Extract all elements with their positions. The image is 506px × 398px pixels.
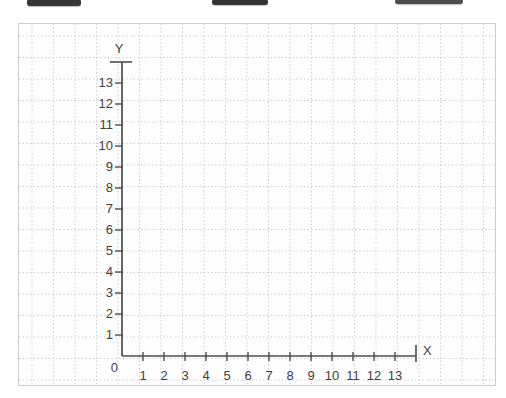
x-tick-label: 4 xyxy=(202,368,209,383)
y-tick-label: 1 xyxy=(106,327,113,342)
y-tick-label: 9 xyxy=(106,159,113,174)
toolbar-button-fragment-left[interactable] xyxy=(27,0,81,6)
y-tick-label: 8 xyxy=(106,180,113,195)
graph-paper-panel: 12345678910111213123456789101112130XY xyxy=(18,23,496,386)
x-tick-label: 13 xyxy=(388,368,402,383)
x-tick-label: 10 xyxy=(325,368,339,383)
y-tick-label: 7 xyxy=(106,201,113,216)
x-tick-label: 12 xyxy=(367,368,381,383)
y-tick-label: 10 xyxy=(99,138,113,153)
y-tick-label: 5 xyxy=(106,243,113,258)
x-tick-label: 6 xyxy=(244,368,251,383)
x-tick-label: 3 xyxy=(181,368,188,383)
x-tick-label: 5 xyxy=(223,368,230,383)
x-axis-label: X xyxy=(423,343,432,358)
coordinate-plane: 12345678910111213123456789101112130XY xyxy=(19,24,495,385)
x-tick-label: 1 xyxy=(139,368,146,383)
origin-label: 0 xyxy=(111,360,118,375)
page: 12345678910111213123456789101112130XY xyxy=(0,0,506,398)
toolbar-button-fragment-right[interactable] xyxy=(395,0,463,4)
x-tick-label: 8 xyxy=(286,368,293,383)
y-tick-label: 2 xyxy=(106,306,113,321)
x-tick-label: 7 xyxy=(265,368,272,383)
y-tick-label: 13 xyxy=(99,75,113,90)
x-tick-label: 9 xyxy=(307,368,314,383)
toolbar-button-fragment-center[interactable] xyxy=(212,0,268,5)
y-axis-label: Y xyxy=(115,41,124,56)
y-tick-label: 6 xyxy=(106,222,113,237)
x-tick-label: 2 xyxy=(160,368,167,383)
y-tick-label: 3 xyxy=(106,285,113,300)
x-tick-label: 11 xyxy=(346,368,360,383)
y-tick-label: 11 xyxy=(100,117,114,132)
y-tick-label: 4 xyxy=(106,264,113,279)
y-tick-label: 12 xyxy=(99,96,113,111)
